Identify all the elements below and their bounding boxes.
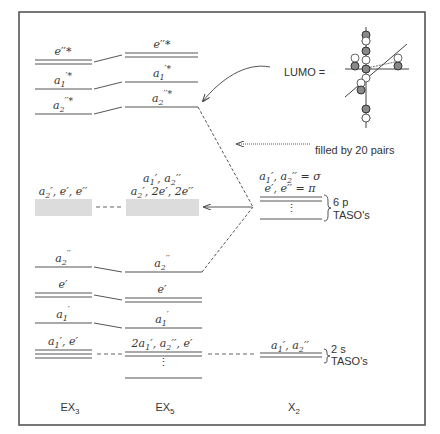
p-brace-label-2: TASO's: [333, 209, 370, 221]
column-label-ex5: EX5: [155, 401, 175, 416]
ex5-label-e2star: e′′*: [153, 38, 171, 51]
ex3-band: [35, 199, 92, 216]
column-label-ex3: EX3: [60, 401, 80, 416]
ex3-label-a2: a2′′: [55, 249, 71, 267]
ex5-label-a2star: a2′′*: [152, 89, 173, 107]
ex3-label-a1e: a1′, e′: [48, 335, 79, 350]
filled-label: filled by 20 pairs: [315, 144, 395, 156]
ex3-label-e: e′: [58, 278, 68, 291]
ex5-vdots: ⋮: [158, 356, 169, 368]
s-brace-label-1: 2 s: [331, 343, 346, 355]
ex5-band: [126, 199, 199, 216]
column-label-x2: X2: [288, 401, 300, 416]
lumo-label: LUMO =: [284, 66, 325, 78]
ex3-label-e2star: e′′*: [54, 45, 72, 58]
ex5-label-band-2: a2′, 2e′, 2e′′: [131, 185, 194, 200]
ex5-levels: e′′* a1′* a2′′* a1′, a2′′ a2′, 2e′, 2e′′…: [125, 38, 202, 378]
ex5-label-e: e′: [157, 283, 167, 296]
mo-diagram: e′′* a1′* a2′′* a2′, e′, e′′ a2′′ e′ a1′…: [0, 0, 440, 434]
ex3-levels: e′′* a1′* a2′′* a2′, e′, e′′ a2′′ e′ a1′…: [35, 45, 92, 358]
p-brace: [324, 195, 331, 221]
x2-s-label: a1′, a2′′: [271, 339, 309, 354]
ex3-label-a1: a1′: [56, 305, 70, 323]
x2-levels: a1′, a2′′ = σ e′, e′′ = π ⋮ 6 p TASO's a…: [259, 170, 370, 367]
ex3-label-a2star: a2′′*: [53, 96, 74, 114]
s-brace: [324, 349, 330, 363]
ex5-label-bottom: 2a1′, a2′′, e′: [131, 337, 193, 352]
lumo-orbital-icon: [345, 27, 409, 128]
ex5-label-a2: a2′′: [154, 254, 170, 272]
ex5-label-a1star: a1′*: [153, 64, 172, 82]
p-brace-label-1: 6 p: [333, 196, 348, 208]
x2-pi-label: e′, e′′ = π: [265, 182, 317, 195]
ex3-ex5-connectors: [94, 55, 123, 354]
ex3-label-a1star: a1′*: [54, 71, 73, 89]
s-brace-label-2: TASO's: [331, 355, 368, 367]
x2-vdots: ⋮: [286, 202, 297, 214]
ex5-label-a1: a1′: [155, 310, 169, 328]
ex3-label-band: a2′, e′, e′′: [39, 185, 88, 200]
